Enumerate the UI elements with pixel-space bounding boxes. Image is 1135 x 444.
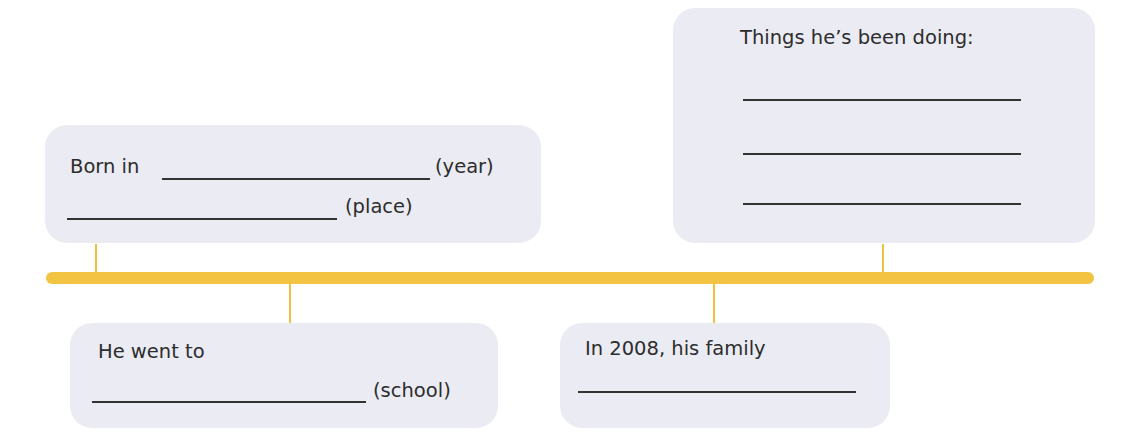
connector-doing <box>882 244 884 274</box>
family-blank[interactable] <box>578 391 856 393</box>
year-label: (year) <box>435 155 494 178</box>
year-blank[interactable] <box>162 178 430 180</box>
doing-blank-2[interactable] <box>743 153 1021 155</box>
born-prefix: Born in <box>70 155 139 178</box>
doing-title: Things he’s been doing: <box>740 26 974 49</box>
family-box: In 2008, his family <box>560 323 890 428</box>
school-box: He went to (school) <box>70 323 498 428</box>
timeline-bar <box>46 272 1094 284</box>
doing-blank-1[interactable] <box>743 99 1021 101</box>
connector-family <box>713 283 715 323</box>
connector-school <box>289 283 291 323</box>
doing-blank-3[interactable] <box>743 203 1021 205</box>
family-prefix: In 2008, his family <box>585 337 766 360</box>
connector-born <box>95 244 97 274</box>
school-blank[interactable] <box>92 401 366 403</box>
place-blank[interactable] <box>67 218 337 220</box>
born-box: Born in (year) (place) <box>45 125 541 243</box>
school-label: (school) <box>373 379 451 402</box>
school-prefix: He went to <box>98 340 205 363</box>
place-label: (place) <box>345 195 413 218</box>
doing-box: Things he’s been doing: <box>673 8 1095 243</box>
